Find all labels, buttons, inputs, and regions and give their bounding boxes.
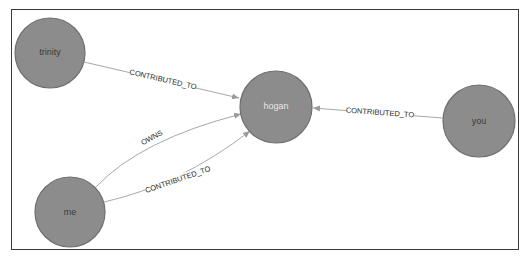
edge-me-contributed-to-hogan[interactable]: CONTRIBUTED_TO (104, 131, 250, 202)
node-trinity[interactable]: trinity (15, 18, 85, 88)
edge-label: OWNS (139, 128, 164, 147)
node-you[interactable]: you (443, 85, 515, 157)
node-hogan[interactable]: hogan (240, 71, 312, 143)
node-label: me (64, 207, 77, 217)
node-label: you (472, 116, 487, 126)
node-label: hogan (263, 101, 288, 111)
node-me[interactable]: me (35, 177, 105, 247)
edge-you-contributed-to-hogan[interactable]: CONTRIBUTED_TO (313, 106, 443, 121)
node-label: trinity (39, 47, 61, 57)
edge-me-owns-hogan[interactable]: OWNS (96, 114, 241, 187)
edge-label: CONTRIBUTED_TO (144, 164, 212, 195)
graph-svg: CONTRIBUTED_TO CONTRIBUTED_TO OWNS CONTR… (0, 0, 527, 258)
edge-trinity-contributed-to-hogan[interactable]: CONTRIBUTED_TO (84, 62, 239, 98)
